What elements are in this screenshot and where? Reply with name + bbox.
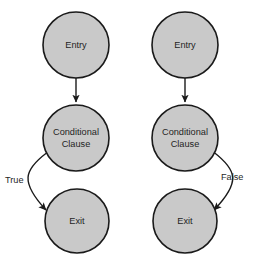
node-right-conditional: Conditional Clause bbox=[152, 105, 218, 171]
node-left-conditional-label-line2: Clause bbox=[62, 139, 91, 149]
flow-column-right: Entry Conditional Clause Exit False bbox=[152, 12, 243, 253]
edge-left-conditional-to-exit bbox=[28, 153, 46, 210]
node-left-exit-label: Exit bbox=[69, 216, 85, 226]
node-left-entry-label: Entry bbox=[65, 40, 87, 50]
node-left-entry: Entry bbox=[43, 12, 109, 78]
node-right-exit-label: Exit bbox=[177, 216, 193, 226]
node-left-conditional: Conditional Clause bbox=[43, 105, 109, 171]
node-right-conditional-label-line2: Clause bbox=[171, 139, 200, 149]
node-left-conditional-shape bbox=[43, 105, 109, 171]
node-right-entry: Entry bbox=[152, 12, 218, 78]
edge-label-true: True bbox=[5, 175, 24, 185]
node-right-exit: Exit bbox=[153, 189, 217, 253]
edge-label-false: False bbox=[221, 172, 243, 182]
flow-column-left: Entry Conditional Clause Exit True bbox=[5, 12, 109, 253]
node-left-conditional-label-line1: Conditional bbox=[53, 127, 99, 137]
node-right-conditional-label-line1: Conditional bbox=[162, 127, 208, 137]
flowchart-diagram: Entry Conditional Clause Exit True bbox=[0, 0, 263, 257]
node-right-entry-label: Entry bbox=[174, 40, 196, 50]
flowchart-canvas: Entry Conditional Clause Exit True bbox=[0, 0, 263, 257]
node-left-exit: Exit bbox=[45, 189, 109, 253]
node-right-conditional-shape bbox=[152, 105, 218, 171]
